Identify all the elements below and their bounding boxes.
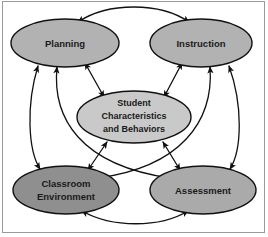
node-classroom-environment[interactable]: Classroom Environment — [13, 166, 119, 214]
edge-planning-instruction — [78, 7, 189, 22]
node-instruction[interactable]: Instruction — [150, 19, 252, 67]
edge-instruction-assessment — [229, 66, 239, 169]
concept-map-svg: Planning Instruction Student Characteris… — [0, 0, 268, 237]
node-layer: Planning Instruction Student Characteris… — [11, 19, 256, 214]
edge-planning-classroom — [30, 66, 40, 169]
classroom-environment-label-line1: Classroom — [41, 178, 90, 189]
edge-instruction-student — [164, 63, 182, 97]
edge-classroom-student — [88, 142, 107, 170]
edge-classroom-assessment — [82, 211, 188, 224]
planning-label: Planning — [45, 38, 85, 49]
student-characteristics-label-line1: Student — [117, 98, 151, 108]
diagram-canvas: Planning Instruction Student Characteris… — [0, 0, 268, 237]
instruction-label: Instruction — [176, 38, 225, 49]
node-student-characteristics[interactable]: Student Characteristics and Behaviors — [77, 91, 191, 143]
assessment-label: Assessment — [175, 185, 232, 196]
student-characteristics-label-line2: Characteristics — [101, 111, 166, 121]
node-planning[interactable]: Planning — [11, 19, 119, 67]
node-assessment[interactable]: Assessment — [150, 166, 256, 214]
student-characteristics-label-line3: and Behaviors — [103, 124, 165, 134]
classroom-environment-label-line2: Environment — [37, 191, 96, 202]
edge-planning-student — [85, 63, 104, 97]
